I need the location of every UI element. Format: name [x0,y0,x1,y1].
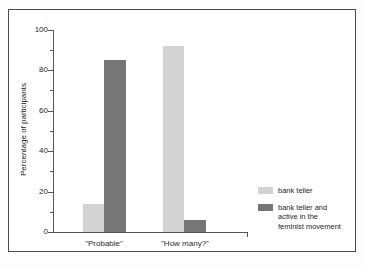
y-tick-100 [48,30,54,31]
legend-swatch-icon-bank-teller [258,187,273,194]
bar-howmany-bank-teller-feminist [184,220,206,232]
legend-label-feminist-line-1: bank teller and [278,203,341,213]
bar-probable-bank-teller-feminist [104,60,126,232]
bar-probable-bank-teller [83,204,104,232]
y-tick-20 [48,192,54,193]
y-tick-minor-30 [50,171,54,172]
y-tick-label-100: 100 [14,26,48,34]
y-tick-0 [48,232,54,233]
y-tick-80 [48,70,54,71]
legend-label-feminist-line-2: active in the [278,212,341,222]
x-axis-line [53,232,248,233]
legend-label-feminist-line-3: feminist movement [278,222,341,232]
y-axis-title: Percentage of participants [19,50,28,210]
figure: 0 20 40 60 80 100 Percentage of particip… [0,0,366,268]
chart-legend: bank teller bank teller and active in th… [258,186,362,238]
bar-howmany-bank-teller [163,46,184,232]
y-tick-minor-10 [50,212,54,213]
y-tick-minor-50 [50,131,54,132]
bar-chart-plot: 0 20 40 60 80 100 Percentage of particip… [0,0,366,268]
legend-swatch-icon-bank-teller-feminist [258,204,273,211]
y-tick-minor-90 [50,50,54,51]
x-tick-label-how-many: "How many?" [145,239,225,248]
x-axis-end-cap [247,232,248,237]
legend-item-bank-teller: bank teller [258,186,362,196]
legend-item-bank-teller-feminist: bank teller and active in the feminist m… [258,203,362,232]
y-tick-40 [48,151,54,152]
legend-label-bank-teller-feminist: bank teller and active in the feminist m… [278,203,341,232]
y-tick-60 [48,111,54,112]
legend-label-bank-teller: bank teller [278,186,313,196]
legend-label-bank-teller-line-1: bank teller [278,186,313,196]
y-tick-label-0: 0 [14,228,48,236]
x-tick-label-probable: "Probable" [64,239,144,248]
y-tick-minor-70 [50,90,54,91]
